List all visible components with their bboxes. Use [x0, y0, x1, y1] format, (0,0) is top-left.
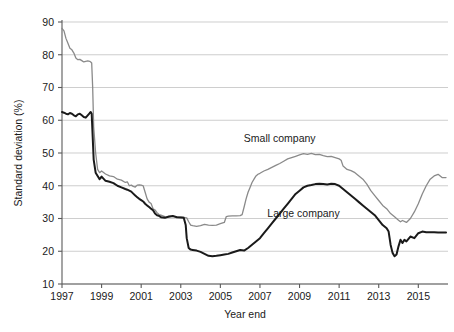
chart-figure: 102030405060708090 199719992001200320052… [0, 0, 454, 332]
y-axis-tick-labels: 102030405060708090 [42, 16, 54, 290]
y-tick-label-60: 60 [42, 114, 54, 126]
series-line-small-company [62, 29, 446, 227]
y-tick-label-90: 90 [42, 16, 54, 28]
series-annotations: Small companyLarge company [244, 132, 341, 219]
y-tick-label-40: 40 [42, 180, 54, 192]
x-axis-tick-labels: 1997199920012003200520072009201120132015 [50, 290, 430, 302]
x-tick-label-2009: 2009 [288, 290, 312, 302]
x-tick-label-2011: 2011 [328, 290, 351, 302]
y-tick-label-10: 10 [42, 278, 54, 290]
x-tick-label-2001: 2001 [129, 290, 153, 302]
x-tick-label-2003: 2003 [169, 290, 193, 302]
x-tick-label-1997: 1997 [50, 290, 74, 302]
x-tick-label-1999: 1999 [90, 290, 114, 302]
x-tick-label-2007: 2007 [248, 290, 272, 302]
series-label-small-company: Small company [244, 132, 317, 144]
y-tick-label-80: 80 [42, 49, 54, 61]
series-label-large-company: Large company [267, 207, 340, 219]
x-tick-label-2005: 2005 [209, 290, 233, 302]
y-tick-label-30: 30 [42, 212, 54, 224]
y-tick-label-20: 20 [42, 245, 54, 257]
y-tick-label-70: 70 [42, 81, 54, 93]
y-tick-label-50: 50 [42, 147, 54, 159]
x-tick-label-2015: 2015 [407, 290, 431, 302]
tick-marks [58, 22, 418, 288]
x-tick-label-2013: 2013 [367, 290, 391, 302]
chart-svg: 102030405060708090 199719992001200320052… [0, 0, 454, 332]
x-axis-title: Year end [224, 308, 266, 320]
y-axis-title: Standard deviation (%) [12, 100, 24, 207]
